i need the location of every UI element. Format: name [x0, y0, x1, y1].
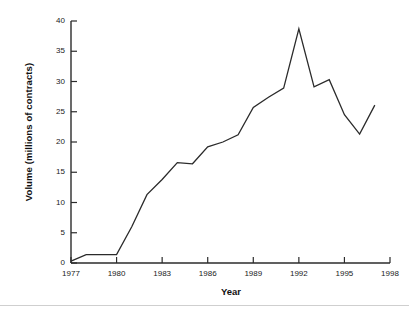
y-tick-label: 5 [41, 228, 65, 237]
x-axis-ticks [71, 257, 390, 263]
x-tick-label: 1995 [329, 269, 359, 278]
y-tick-label: 0 [41, 258, 65, 267]
y-tick-label: 20 [41, 137, 65, 146]
y-tick-label: 10 [41, 198, 65, 207]
y-axis-ticks [71, 21, 77, 263]
y-tick-label: 40 [41, 16, 65, 25]
x-tick-label: 1998 [375, 269, 405, 278]
y-tick-label: 30 [41, 77, 65, 86]
x-tick-label: 1989 [238, 269, 268, 278]
axis-lines [71, 21, 390, 263]
data-series-line [71, 29, 375, 261]
x-tick-label: 1992 [284, 269, 314, 278]
x-tick-label: 1980 [102, 269, 132, 278]
x-tick-label: 1983 [147, 269, 177, 278]
y-tick-label: 15 [41, 167, 65, 176]
footer-divider [0, 305, 409, 306]
x-axis-title: Year [71, 286, 391, 297]
chart-figure: 0510152025303540 19771980198319861989199… [0, 0, 409, 316]
x-tick-label: 1986 [193, 269, 223, 278]
x-tick-label: 1977 [56, 269, 86, 278]
y-tick-label: 35 [41, 46, 65, 55]
y-tick-label: 25 [41, 107, 65, 116]
